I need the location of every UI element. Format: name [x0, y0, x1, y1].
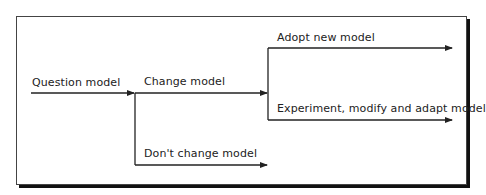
label-experiment-model: Experiment, modify and adapt model [277, 102, 486, 115]
label-change-model: Change model [144, 75, 225, 88]
label-adopt-new-model: Adopt new model [277, 31, 375, 44]
label-question-model: Question model [32, 76, 120, 89]
label-dont-change-model: Don't change model [144, 147, 257, 160]
